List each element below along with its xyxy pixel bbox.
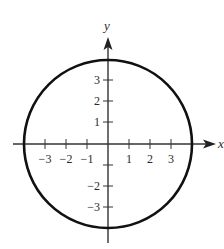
- y-tick-label: 2: [94, 94, 100, 108]
- y-tick-label: 1: [94, 115, 100, 129]
- x-tick-label: −1: [81, 152, 94, 166]
- y-tick-label: 3: [94, 73, 100, 87]
- x-tick-label: 1: [126, 152, 132, 166]
- y-tick-label: −2: [87, 179, 100, 193]
- y-tick-label: −3: [87, 200, 100, 214]
- x-tick-label: −3: [39, 152, 52, 166]
- y-axis-label: y: [102, 18, 110, 33]
- x-axis-label: x: [217, 136, 224, 151]
- circle-graph: −3 −2 −1 1 2 3 3 2 1 −2 −3 x y: [0, 0, 224, 249]
- x-tick-label: 3: [168, 152, 174, 166]
- x-tick-label: −2: [60, 152, 73, 166]
- x-tick-label: 2: [147, 152, 153, 166]
